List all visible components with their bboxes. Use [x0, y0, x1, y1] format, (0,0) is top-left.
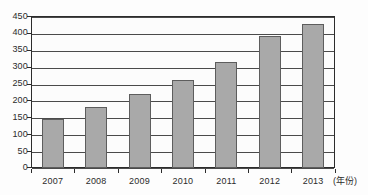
x-ticklabel-2007: 2007 [30, 176, 76, 186]
bar-2008 [85, 107, 107, 168]
x-tickmark [31, 169, 32, 173]
y-ticklabel-0: 0 [0, 163, 28, 172]
y-ticklabel-50: 50 [0, 147, 28, 156]
y-ticklabel-150: 150 [0, 113, 28, 122]
y-ticklabel-200: 200 [0, 96, 28, 105]
bar-2010 [172, 80, 194, 169]
x-ticklabel-2008: 2008 [73, 176, 119, 186]
bars-layer [31, 16, 335, 168]
y-ticklabel-400: 400 [0, 28, 28, 37]
y-ticklabel-350: 350 [0, 45, 28, 54]
x-tickmark [335, 169, 336, 173]
x-tickmark [118, 169, 119, 173]
bar-2011 [215, 62, 237, 168]
y-ticklabel-300: 300 [0, 62, 28, 71]
x-ticklabel-2013: 2013 [290, 176, 336, 186]
bar-2012 [259, 36, 281, 168]
x-ticklabel-2009: 2009 [117, 176, 163, 186]
x-tickmark [205, 169, 206, 173]
x-tickmark [291, 169, 292, 173]
x-tickmark [74, 169, 75, 173]
y-ticklabel-100: 100 [0, 130, 28, 139]
gridline [32, 168, 334, 169]
x-ticklabel-2012: 2012 [247, 176, 293, 186]
x-tickmark [248, 169, 249, 173]
bar-2007 [42, 119, 64, 168]
x-tickmark [161, 169, 162, 173]
x-ticklabel-2011: 2011 [203, 176, 249, 186]
x-ticklabel-2010: 2010 [160, 176, 206, 186]
y-ticklabel-450: 450 [0, 12, 28, 21]
bar-2009 [129, 94, 151, 168]
y-ticklabel-250: 250 [0, 79, 28, 88]
bar-2013 [302, 24, 324, 168]
bar-chart: 450 400 350 300 250 200 150 100 50 0 200… [0, 0, 368, 195]
x-axis-title: (年份) [333, 176, 357, 186]
